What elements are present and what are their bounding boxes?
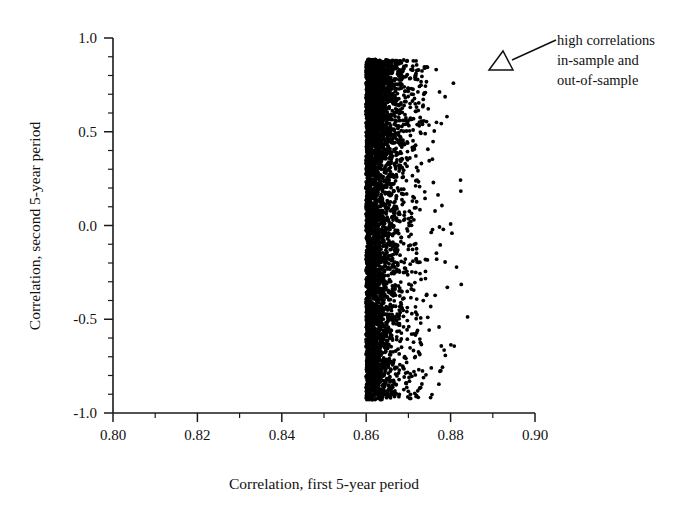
data-point [404, 381, 408, 385]
data-point [436, 193, 440, 197]
data-point [406, 150, 410, 154]
data-point [441, 365, 445, 369]
data-point [399, 260, 403, 264]
x-tick-label: 0.90 [522, 427, 548, 443]
data-point [370, 123, 374, 127]
data-point [397, 163, 401, 167]
data-point [435, 251, 439, 255]
data-point [379, 146, 383, 150]
data-point [424, 277, 428, 281]
data-point [377, 198, 381, 202]
y-axis-ticks [104, 38, 113, 413]
data-point [416, 389, 420, 393]
data-point [427, 123, 431, 127]
data-point [398, 71, 402, 75]
data-point [399, 280, 403, 284]
data-point [400, 166, 404, 170]
data-point [373, 393, 377, 397]
data-point [409, 392, 413, 396]
data-point [413, 147, 417, 151]
data-point [409, 68, 413, 72]
x-tick-label: 0.88 [437, 427, 463, 443]
data-point [384, 367, 388, 371]
data-point [366, 377, 370, 381]
data-point [424, 84, 428, 88]
data-point [405, 306, 409, 310]
data-point [414, 109, 418, 113]
data-point [400, 345, 404, 349]
data-point [381, 287, 385, 291]
data-point [390, 271, 394, 275]
data-point [380, 363, 384, 367]
data-point [365, 207, 369, 211]
data-point [371, 320, 375, 324]
data-point [394, 179, 398, 183]
data-point [366, 109, 370, 113]
data-point [410, 199, 414, 203]
data-point [366, 65, 370, 69]
data-point [370, 238, 374, 242]
data-point [372, 307, 376, 311]
data-point [429, 366, 433, 370]
data-point [390, 154, 394, 158]
data-point [385, 199, 389, 203]
data-point [418, 185, 422, 189]
data-point [422, 91, 426, 95]
data-point [445, 285, 449, 289]
data-point [403, 257, 407, 261]
data-point [443, 260, 447, 264]
data-point [411, 64, 415, 68]
data-point [376, 308, 380, 312]
data-point [419, 131, 423, 135]
data-point [392, 112, 396, 116]
data-point [401, 171, 405, 175]
data-point [394, 96, 398, 100]
data-point [387, 254, 391, 258]
x-tick-label: 0.82 [184, 427, 210, 443]
data-point [371, 94, 375, 98]
data-point [424, 270, 428, 274]
data-point [373, 249, 377, 253]
data-point [383, 192, 387, 196]
data-point [391, 245, 395, 249]
data-point [382, 244, 386, 248]
data-point [406, 273, 410, 277]
data-point [403, 162, 407, 166]
data-point [400, 176, 404, 180]
data-point [373, 330, 377, 334]
data-point [387, 127, 391, 131]
data-point [375, 128, 379, 132]
data-point [390, 313, 394, 317]
data-point [423, 190, 427, 194]
data-point [385, 180, 389, 184]
data-point [379, 308, 383, 312]
data-point [408, 102, 412, 106]
data-point [413, 373, 417, 377]
data-point [375, 257, 379, 261]
data-point [409, 232, 413, 236]
data-point [379, 398, 383, 402]
x-tick-label: 0.80 [100, 427, 126, 443]
data-point [364, 154, 368, 158]
data-point [395, 319, 399, 323]
data-point [386, 94, 390, 98]
data-point [419, 386, 423, 390]
data-point [392, 201, 396, 205]
data-point [405, 269, 409, 273]
data-point [397, 368, 401, 372]
data-point [397, 378, 401, 382]
data-point [405, 192, 409, 196]
data-point [431, 140, 435, 144]
data-point [431, 181, 435, 185]
data-point [384, 212, 388, 216]
data-point [374, 381, 378, 385]
data-point [397, 232, 401, 236]
data-point [415, 251, 419, 255]
data-point [381, 256, 385, 260]
data-point [380, 110, 384, 114]
data-point [402, 64, 406, 68]
data-point [395, 158, 399, 162]
axes [113, 38, 535, 413]
data-point [398, 294, 402, 298]
data-point [367, 104, 371, 108]
